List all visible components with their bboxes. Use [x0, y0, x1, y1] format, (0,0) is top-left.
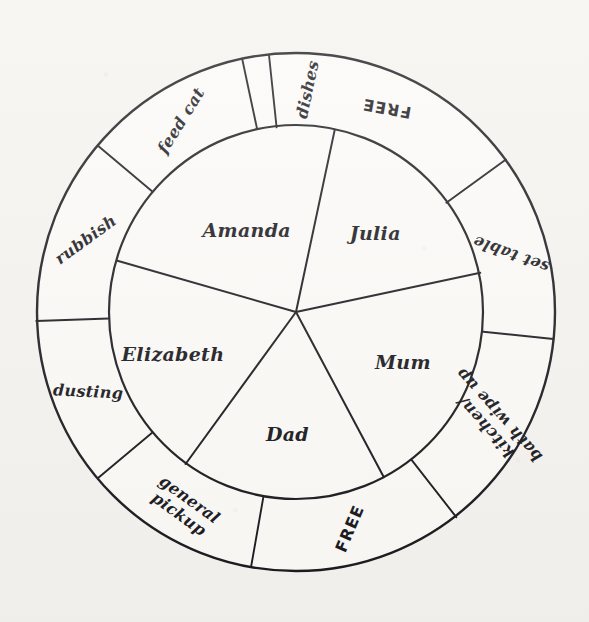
wheel-drawing — [0, 0, 589, 622]
chore-wheel-figure: JuliaMumDadElizabethAmandaFREEset tablek… — [0, 0, 589, 622]
